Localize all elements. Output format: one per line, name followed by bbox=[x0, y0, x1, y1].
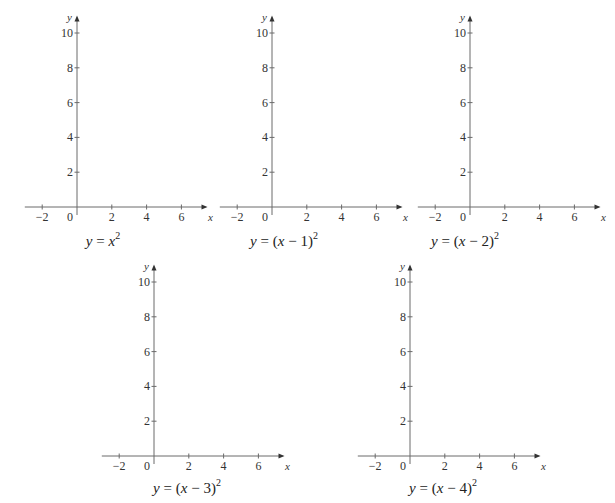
y-tick-label: 4 bbox=[144, 379, 150, 393]
y-axis-label: y bbox=[261, 11, 267, 23]
y-tick-label: 2 bbox=[400, 414, 406, 428]
x-tick-label: 4 bbox=[477, 459, 483, 473]
y-tick-label: 8 bbox=[262, 61, 268, 75]
y-axis-label: y bbox=[143, 260, 149, 272]
y-tick-label: 6 bbox=[400, 345, 406, 359]
y-tick-label: 8 bbox=[144, 310, 150, 324]
origin-label: 0 bbox=[144, 459, 150, 473]
x-tick-label: −2 bbox=[429, 210, 442, 224]
worksheet-canvas: −22460x246810yy = x2−22460x246810yy = (x… bbox=[0, 0, 615, 503]
y-tick-label: 8 bbox=[67, 61, 73, 75]
y-axis-label: y bbox=[66, 11, 72, 23]
y-axis-arrow-icon bbox=[75, 16, 80, 22]
y-tick-label: 6 bbox=[67, 96, 73, 110]
x-axis-arrow-icon bbox=[535, 454, 541, 459]
y-tick-label: 4 bbox=[400, 379, 406, 393]
y-tick-label: 4 bbox=[460, 130, 466, 144]
origin-label: 0 bbox=[400, 459, 406, 473]
y-axis-arrow-icon bbox=[270, 16, 275, 22]
graph-5: −22460x246810yy = (x − 4)2 bbox=[358, 260, 546, 497]
x-tick-label: 4 bbox=[537, 210, 543, 224]
y-tick-label: 6 bbox=[460, 96, 466, 110]
x-axis-arrow-icon bbox=[595, 205, 601, 210]
x-tick-label: −2 bbox=[113, 459, 126, 473]
origin-label: 0 bbox=[67, 210, 73, 224]
y-tick-label: 10 bbox=[61, 26, 73, 40]
y-tick-label: 6 bbox=[262, 96, 268, 110]
x-axis-label: x bbox=[284, 460, 290, 472]
y-tick-label: 10 bbox=[394, 275, 406, 289]
x-axis-arrow-icon bbox=[397, 205, 403, 210]
y-tick-label: 4 bbox=[262, 130, 268, 144]
graph-4: −22460x246810yy = (x − 3)2 bbox=[102, 260, 290, 497]
graph-2: −22460x246810yy = (x − 1)2 bbox=[220, 11, 408, 250]
y-tick-label: 6 bbox=[144, 345, 150, 359]
origin-label: 0 bbox=[262, 210, 268, 224]
y-tick-label: 4 bbox=[67, 130, 73, 144]
graph-caption: y = (x − 3)2 bbox=[151, 477, 221, 497]
x-tick-label: 6 bbox=[255, 459, 261, 473]
y-tick-label: 8 bbox=[400, 310, 406, 324]
graph-caption: y = (x − 1)2 bbox=[248, 230, 318, 250]
y-tick-label: 2 bbox=[262, 165, 268, 179]
y-tick-label: 2 bbox=[460, 165, 466, 179]
y-axis-arrow-icon bbox=[152, 265, 157, 271]
y-axis-arrow-icon bbox=[408, 265, 413, 271]
x-tick-label: 4 bbox=[339, 210, 345, 224]
x-axis-label: x bbox=[207, 211, 213, 223]
x-tick-label: 6 bbox=[178, 210, 184, 224]
x-axis-arrow-icon bbox=[279, 454, 285, 459]
y-tick-label: 10 bbox=[454, 26, 466, 40]
y-tick-label: 8 bbox=[460, 61, 466, 75]
y-axis-arrow-icon bbox=[468, 16, 473, 22]
x-tick-label: 6 bbox=[571, 210, 577, 224]
x-axis-arrow-icon bbox=[202, 205, 208, 210]
x-tick-label: 4 bbox=[221, 459, 227, 473]
graph-3: −22460x246810yy = (x − 2)2 bbox=[418, 11, 606, 250]
y-tick-label: 10 bbox=[256, 26, 268, 40]
x-tick-label: 6 bbox=[373, 210, 379, 224]
x-axis-label: x bbox=[402, 211, 408, 223]
x-axis-label: x bbox=[600, 211, 606, 223]
x-tick-label: 2 bbox=[502, 210, 508, 224]
x-axis-label: x bbox=[540, 460, 546, 472]
graph-caption: y = (x − 2)2 bbox=[429, 230, 499, 250]
y-tick-label: 2 bbox=[67, 165, 73, 179]
x-tick-label: 6 bbox=[511, 459, 517, 473]
x-tick-label: −2 bbox=[36, 210, 49, 224]
x-tick-label: 2 bbox=[109, 210, 115, 224]
graph-1: −22460x246810yy = x2 bbox=[25, 11, 213, 249]
x-tick-label: 4 bbox=[144, 210, 150, 224]
x-tick-label: −2 bbox=[369, 459, 382, 473]
origin-label: 0 bbox=[460, 210, 466, 224]
x-tick-label: 2 bbox=[442, 459, 448, 473]
y-tick-label: 2 bbox=[144, 414, 150, 428]
y-axis-label: y bbox=[459, 11, 465, 23]
x-tick-label: −2 bbox=[231, 210, 244, 224]
y-tick-label: 10 bbox=[138, 275, 150, 289]
x-tick-label: 2 bbox=[186, 459, 192, 473]
y-axis-label: y bbox=[399, 260, 405, 272]
x-tick-label: 2 bbox=[304, 210, 310, 224]
graph-caption: y = (x − 4)2 bbox=[407, 477, 477, 497]
graph-caption: y = x2 bbox=[84, 230, 120, 249]
